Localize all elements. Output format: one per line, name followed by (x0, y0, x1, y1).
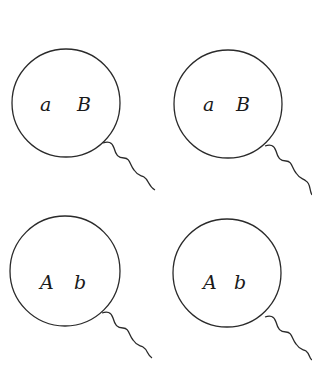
sperm-cell-top-left: a B (12, 49, 155, 190)
allele-2: b (74, 271, 86, 293)
cell-head (173, 219, 281, 327)
sperm-cell-bottom-left: A b (10, 216, 152, 358)
allele-2: B (76, 93, 91, 115)
cell-head (174, 50, 282, 158)
allele-1: A (38, 271, 54, 293)
sperm-cell-top-right: a B (174, 50, 312, 195)
cell-head (12, 49, 120, 157)
flagellum (102, 312, 152, 358)
allele-1: A (201, 271, 217, 293)
allele-2: B (235, 93, 250, 115)
flagellum (265, 316, 312, 360)
allele-1: a (203, 93, 214, 115)
allele-1: a (40, 93, 51, 115)
flagellum (265, 145, 312, 195)
cell-head (10, 216, 120, 326)
flagellum (103, 142, 155, 190)
sperm-cell-bottom-right: A b (173, 219, 312, 360)
sperm-diagram: a B a B A b A b (0, 0, 312, 365)
allele-2: b (234, 271, 246, 293)
